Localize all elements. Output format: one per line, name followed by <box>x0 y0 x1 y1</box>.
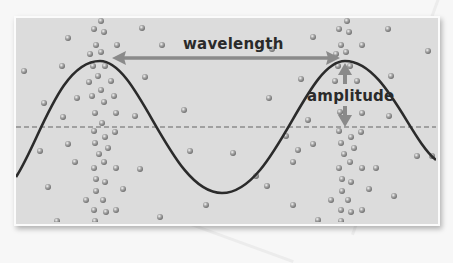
wavelength-label: wavelength <box>183 35 284 53</box>
amplitude-label: amplitude <box>307 87 394 105</box>
wavelength-arrow <box>112 51 340 65</box>
